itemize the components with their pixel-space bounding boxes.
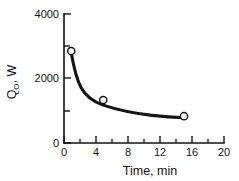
y-tick-label-0: 0 [53,137,59,149]
x-axis-title: Time, min [123,164,177,178]
x-tick-label-8: 8 [125,146,131,158]
line-chart: 4000 2000 0 0 4 8 12 16 20 Time, min QO,… [0,0,239,181]
data-point-1 [68,47,75,54]
y-tick-label-2000: 2000 [35,72,59,84]
y-axis-title: QO, W [5,64,21,99]
x-tick-label-4: 4 [93,146,99,158]
data-point-3 [180,113,187,120]
data-curve [71,53,183,118]
chart-screenshot: 4000 2000 0 0 4 8 12 16 20 Time, min QO,… [0,0,239,181]
x-tick-label-0: 0 [61,146,67,158]
y-tick-label-4000: 4000 [35,8,59,20]
y-axis-title-text: QO, W [5,64,21,99]
y-axis-title-tail: , W [5,64,19,83]
x-tick-label-12: 12 [154,146,166,158]
data-point-2 [100,96,107,103]
x-tick-label-16: 16 [186,146,198,158]
y-axis-title-main: Q [5,89,19,99]
x-tick-label-20: 20 [218,146,230,158]
